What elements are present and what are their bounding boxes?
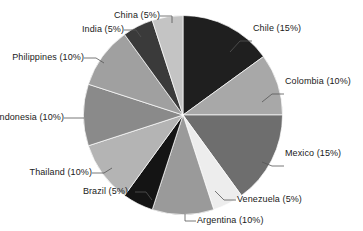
pie-label-india: India (5%) <box>82 24 124 35</box>
pie-label-brazil: Brazil (5%) <box>83 186 128 197</box>
pie-label-chile: Chile (15%) <box>253 23 301 34</box>
pie-label-thailand: Thailand (10%) <box>30 167 92 178</box>
pie-slice-group <box>83 16 282 215</box>
pie-label-venezuela: Venezuela (5%) <box>237 194 302 205</box>
pie-label-argentina: Argentina (10%) <box>197 215 264 226</box>
pie-chart-figure: Chile (15%) Colombia (10%) Mexico (15%) … <box>0 0 363 231</box>
leader-line-argentina <box>185 214 196 221</box>
pie-label-mexico: Mexico (15%) <box>285 148 341 159</box>
pie-label-philippines: Philippines (10%) <box>12 52 84 63</box>
pie-label-indonesia: Indonesia (10%) <box>0 112 64 123</box>
pie-label-colombia: Colombia (10%) <box>285 76 351 87</box>
pie-label-china: China (5%) <box>114 10 160 21</box>
